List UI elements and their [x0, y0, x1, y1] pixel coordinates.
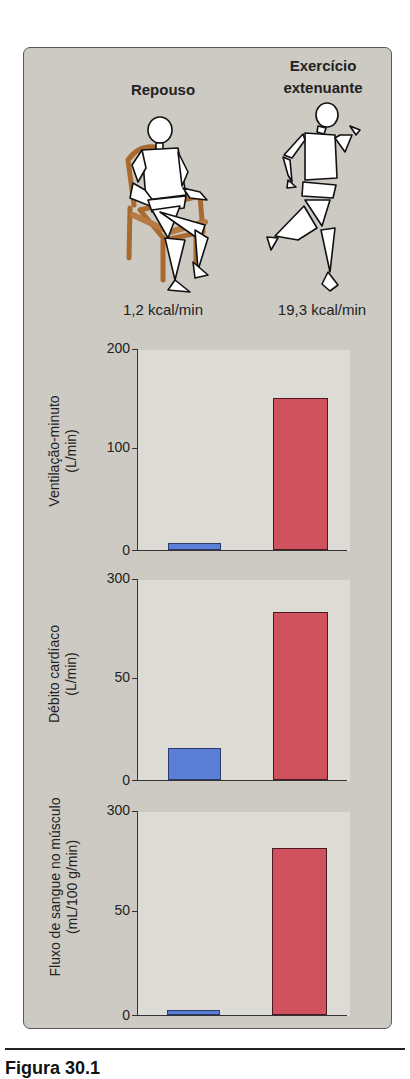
figure-caption: Figura 30.1 — [5, 1058, 100, 1079]
ylabel-line1: Débito cardíaco — [46, 586, 63, 762]
bar-exercise — [272, 848, 327, 1015]
ylabel-line1: Ventilação-minuto — [46, 363, 63, 539]
ytick-label: 300 — [90, 802, 130, 818]
ylabel-line1: Fluxo de sangue no músculo — [47, 777, 64, 997]
running-person-icon — [267, 103, 360, 291]
ytick-label: 200 — [90, 340, 130, 356]
bar-rest — [167, 1010, 220, 1015]
ytick-label: 50 — [90, 902, 130, 918]
tick — [132, 678, 137, 679]
caption-rule — [5, 1048, 405, 1050]
tick — [132, 349, 137, 350]
exercise-energy-label: 19,3 kcal/min — [257, 301, 387, 318]
tick — [132, 911, 137, 912]
ytick-label: 0 — [90, 1007, 130, 1023]
y-axis — [137, 349, 138, 551]
ylabel: Fluxo de sangue no músculo (mL/100 g/min… — [47, 777, 81, 997]
tick — [132, 579, 137, 580]
ytick-label: 0 — [90, 542, 130, 558]
x-axis — [132, 780, 347, 781]
ytick-label: 300 — [90, 570, 130, 586]
ytick-label: 0 — [90, 772, 130, 788]
y-axis — [137, 579, 138, 781]
ytick-label: 100 — [90, 439, 130, 455]
bar-rest — [168, 748, 221, 780]
rest-energy-label: 1,2 kcal/min — [98, 301, 228, 318]
bar-exercise — [273, 612, 328, 780]
ylabel-line2: (L/min) — [63, 586, 80, 762]
seated-person-icon — [130, 117, 208, 292]
ylabel: Ventilação-minuto (L/min) — [46, 363, 80, 539]
bar-exercise — [273, 398, 328, 550]
y-axis — [137, 811, 138, 1016]
ylabel: Débito cardíaco (L/min) — [46, 586, 80, 762]
x-axis — [132, 550, 347, 551]
tick — [132, 811, 137, 812]
x-axis — [132, 1015, 347, 1016]
tick — [132, 448, 137, 449]
ylabel-line2: (mL/100 g/min) — [64, 777, 81, 997]
bar-rest — [168, 543, 221, 550]
ylabel-line2: (L/min) — [63, 363, 80, 539]
ytick-label: 50 — [90, 669, 130, 685]
